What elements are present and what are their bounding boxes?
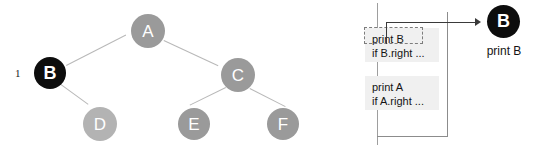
tree-node-c[interactable]: C [221, 58, 255, 92]
stack-frame-bottom[interactable]: print A if A.right ... [365, 76, 439, 110]
output-node: B [487, 5, 520, 38]
tree-edge-b-d [60, 84, 88, 105]
tree-node-b-label: B [43, 64, 56, 82]
tree-node-d[interactable]: D [83, 107, 117, 141]
tree-edge-a-c [164, 40, 219, 66]
tree-node-b[interactable]: B [34, 57, 66, 89]
tree-node-a-label: A [142, 23, 154, 40]
step-number-label: 1 [15, 67, 21, 79]
tree-node-a[interactable]: A [131, 14, 165, 48]
output-arrow-horizontal-segment [386, 22, 476, 23]
tree-edge-a-b [66, 35, 126, 66]
binary-tree-panel: 1 A B C D E F [0, 0, 377, 148]
tree-node-e-label: E [188, 116, 200, 133]
output-node-label: B [497, 11, 510, 32]
output-caption: print B [475, 44, 533, 58]
stack-frame-bottom-line2: if A.right ... [372, 94, 435, 108]
stack-frame-bottom-line1: print A [372, 80, 435, 94]
output-arrow-head-icon [475, 18, 481, 26]
current-statement-highlight [364, 27, 423, 44]
recursion-trace-figure: 1 A B C D E F print B if B.right ... [0, 0, 537, 148]
output-arrow-vertical-segment [386, 22, 387, 44]
tree-node-f[interactable]: F [267, 108, 299, 140]
stack-frame-top-line2: if B.right ... [372, 46, 435, 60]
tree-edge-c-f [250, 88, 286, 107]
tree-edge-c-e [190, 87, 226, 105]
tree-node-d-label: D [94, 116, 106, 133]
call-stack-panel: print B if B.right ... print A if A.righ… [377, 0, 537, 148]
tree-node-f-label: F [278, 116, 289, 133]
tree-node-e[interactable]: E [178, 108, 210, 140]
tree-node-c-label: C [232, 67, 244, 84]
